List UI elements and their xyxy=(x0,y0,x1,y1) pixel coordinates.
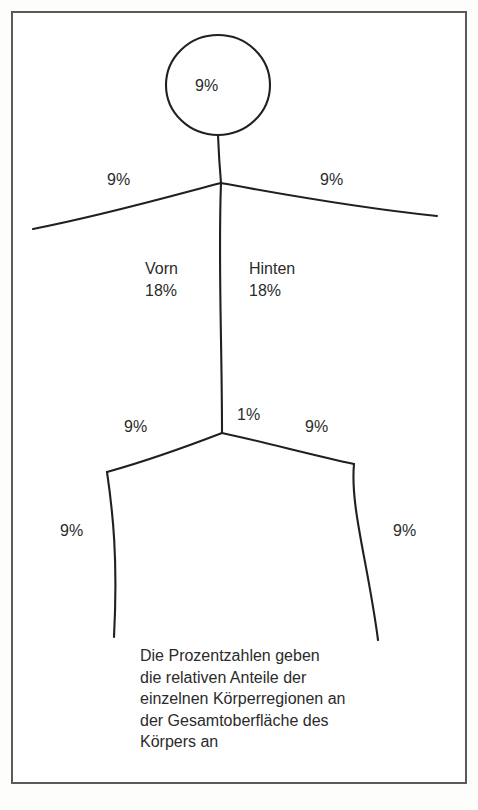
torso-center-line xyxy=(220,183,222,433)
arm-left-line xyxy=(33,183,221,229)
label-trunk-back-percent: 18% xyxy=(249,280,295,302)
neck-line xyxy=(218,135,221,183)
leg-left-outline xyxy=(107,472,115,637)
label-leg-right-percent: 9% xyxy=(393,522,417,540)
label-arm-right-percent: 9% xyxy=(320,171,344,189)
caption-line-1: Die Prozentzahlen geben xyxy=(140,645,390,667)
caption-line-3: einzelnen Körperregionen an xyxy=(140,688,390,710)
figure-root: 9% 9% 9% Vorn 18% Hinten 18% 1% 9% 9% 9%… xyxy=(0,0,478,810)
leg-right-outline xyxy=(353,464,378,640)
label-arm-left-percent: 9% xyxy=(107,171,131,189)
label-leg-left-percent: 9% xyxy=(60,522,84,540)
thigh-left-line xyxy=(107,433,222,472)
caption-line-2: die relativen Anteile der xyxy=(140,667,390,689)
caption-line-4: der Gesamtoberfläche des xyxy=(140,710,390,732)
label-trunk-front: Vorn 18% xyxy=(145,258,178,302)
thigh-right-line xyxy=(222,433,354,464)
label-trunk-back: Hinten 18% xyxy=(249,258,295,302)
label-thigh-left-percent: 9% xyxy=(124,418,148,436)
figure-caption: Die Prozentzahlen geben die relativen An… xyxy=(140,645,390,753)
label-head-percent: 9% xyxy=(195,77,219,95)
label-trunk-back-name: Hinten xyxy=(249,258,295,280)
caption-line-5: Körpers an xyxy=(140,731,390,753)
label-genital-percent: 1% xyxy=(237,406,261,424)
label-thigh-right-percent: 9% xyxy=(305,418,329,436)
label-trunk-front-name: Vorn xyxy=(145,258,178,280)
label-trunk-front-percent: 18% xyxy=(145,280,178,302)
